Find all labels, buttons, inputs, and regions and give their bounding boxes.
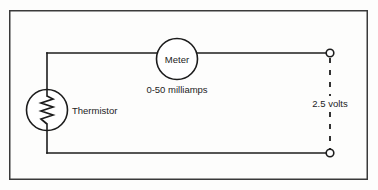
meter-label: Meter bbox=[165, 54, 189, 65]
circuit-diagram: Meter 0-50 milliamps Thermistor 2.5 volt… bbox=[0, 0, 378, 190]
source-voltage-label: 2.5 volts bbox=[312, 98, 348, 109]
source-terminal-bottom bbox=[326, 149, 334, 157]
thermistor-label: Thermistor bbox=[72, 105, 117, 116]
source-terminal-top bbox=[326, 49, 334, 57]
circuit-svg-canvas: Meter 0-50 milliamps Thermistor 2.5 volt… bbox=[0, 0, 378, 190]
diagram-border bbox=[10, 11, 368, 180]
meter-range-label: 0-50 milliamps bbox=[146, 84, 207, 95]
